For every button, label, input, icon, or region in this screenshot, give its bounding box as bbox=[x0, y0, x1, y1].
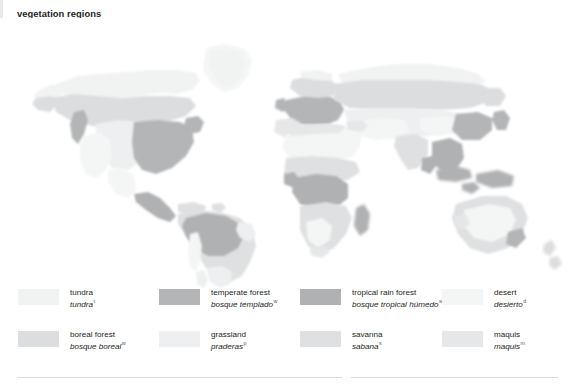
legend-label-es: maquism bbox=[494, 342, 525, 353]
legend-swatch-tropical-rain-forest bbox=[300, 289, 341, 305]
legend-item-boreal-forest[interactable]: boreal forest bosque borealw bbox=[18, 330, 126, 362]
legend-item-temperate-forest[interactable]: temperate forest bosque templadow bbox=[159, 288, 278, 320]
legend-label-es: bosque templadow bbox=[211, 300, 278, 311]
legend-label-maquis: maquis maquism bbox=[494, 330, 525, 353]
legend-item-grassland[interactable]: grassland praderasp bbox=[159, 330, 246, 362]
legend-swatch-desert bbox=[442, 289, 483, 305]
legend-label-savanna: savanna sabanas bbox=[352, 330, 383, 353]
footer-rule-right bbox=[351, 377, 558, 378]
world-map-svg bbox=[0, 18, 575, 290]
legend-label-tundra: tundra tundrat bbox=[70, 288, 95, 311]
legend-marker: p bbox=[243, 340, 246, 346]
footer-rule-left bbox=[17, 377, 342, 378]
legend-label-es: sabanas bbox=[352, 342, 383, 353]
legend-marker: s bbox=[379, 340, 382, 346]
legend-marker: w bbox=[122, 340, 126, 346]
legend-item-desert[interactable]: desert desiertod bbox=[442, 288, 526, 320]
legend-marker: m bbox=[521, 340, 526, 346]
legend-label-es: bosque tropical húmedow bbox=[352, 300, 443, 311]
legend-row-2: boreal forest bosque borealw grassland p… bbox=[0, 330, 575, 364]
legend-label-es: bosque borealw bbox=[70, 342, 126, 353]
legend-label-en: temperate forest bbox=[211, 288, 278, 299]
map-legend: tundra tundrat temperate forest bosque t… bbox=[0, 288, 575, 372]
legend-item-tundra[interactable]: tundra tundrat bbox=[18, 288, 95, 320]
legend-swatch-savanna bbox=[300, 331, 341, 347]
legend-item-maquis[interactable]: maquis maquism bbox=[442, 330, 525, 362]
legend-swatch-boreal-forest bbox=[18, 331, 59, 347]
legend-label-desert: desert desiertod bbox=[494, 288, 526, 311]
legend-label-en: tundra bbox=[70, 288, 95, 299]
legend-label-grassland: grassland praderasp bbox=[211, 330, 246, 353]
world-map bbox=[0, 18, 575, 290]
legend-label-es: praderasp bbox=[211, 342, 246, 353]
legend-item-savanna[interactable]: savanna sabanas bbox=[300, 330, 383, 362]
legend-label-es: desiertod bbox=[494, 300, 526, 311]
legend-swatch-tundra bbox=[18, 289, 59, 305]
legend-row-1: tundra tundrat temperate forest bosque t… bbox=[0, 288, 575, 322]
legend-label-boreal-forest: boreal forest bosque borealw bbox=[70, 330, 126, 353]
legend-label-en: grassland bbox=[211, 330, 246, 341]
legend-label-en: boreal forest bbox=[70, 330, 126, 341]
legend-marker: d bbox=[523, 298, 526, 304]
legend-swatch-maquis bbox=[442, 331, 483, 347]
legend-marker: w bbox=[274, 298, 278, 304]
legend-swatch-temperate-forest bbox=[159, 289, 200, 305]
vegetation-map-page: vegetation regions distribución de la ve… bbox=[0, 0, 575, 385]
legend-swatch-grassland bbox=[159, 331, 200, 347]
legend-label-en: tropical rain forest bbox=[352, 288, 443, 299]
legend-label-en: savanna bbox=[352, 330, 383, 341]
legend-label-tropical-rain-forest: tropical rain forest bosque tropical húm… bbox=[352, 288, 443, 311]
legend-item-tropical-rain-forest[interactable]: tropical rain forest bosque tropical húm… bbox=[300, 288, 443, 320]
legend-label-es: tundrat bbox=[70, 300, 95, 311]
legend-marker: t bbox=[93, 298, 95, 304]
legend-label-en: desert bbox=[494, 288, 526, 299]
legend-label-temperate-forest: temperate forest bosque templadow bbox=[211, 288, 278, 311]
legend-label-en: maquis bbox=[494, 330, 525, 341]
